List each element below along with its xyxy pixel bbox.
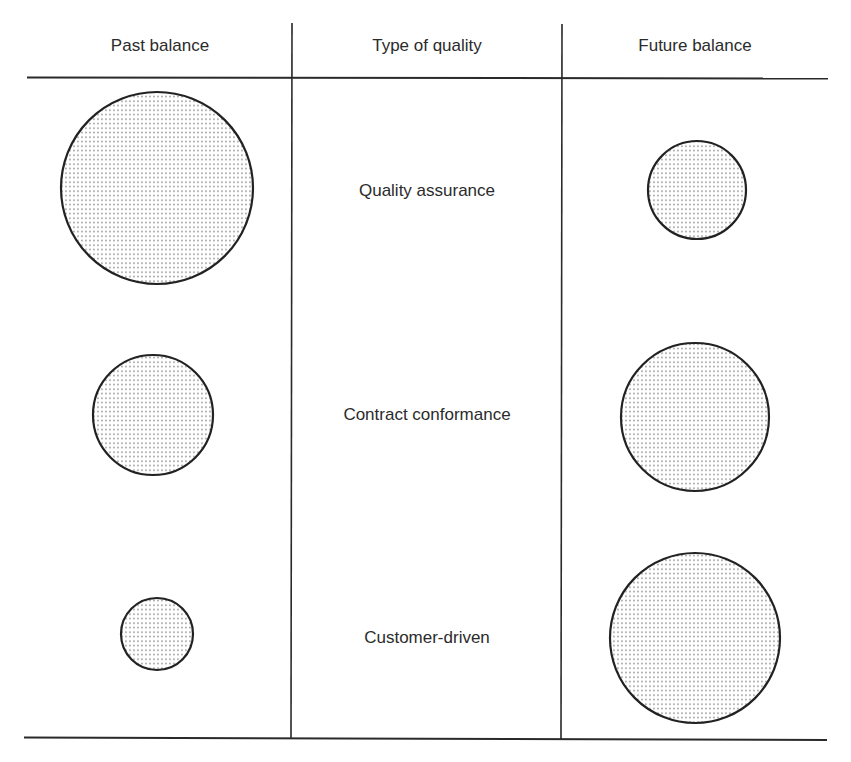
header-type-of-quality: Type of quality <box>372 36 482 56</box>
future-circle-quality-assurance <box>648 141 746 239</box>
future-circle-customer-driven <box>610 553 780 723</box>
quality-balance-diagram: Past balance Type of quality Future bala… <box>0 0 851 762</box>
bottom-divider-line <box>24 738 827 741</box>
header-divider-line <box>27 78 828 79</box>
header-past-balance: Past balance <box>111 36 209 56</box>
past-circle-customer-driven <box>121 598 193 670</box>
future-balance-circles <box>610 141 780 723</box>
column-divider-right <box>561 24 562 739</box>
future-circle-contract-conformance <box>621 343 769 491</box>
past-circle-contract-conformance <box>93 355 213 475</box>
column-divider-left <box>291 23 292 738</box>
past-balance-circles <box>61 92 253 670</box>
header-future-balance: Future balance <box>638 36 751 56</box>
row-label-contract-conformance: Contract conformance <box>343 405 510 425</box>
past-circle-quality-assurance <box>61 92 253 284</box>
row-label-customer-driven: Customer-driven <box>364 628 490 648</box>
row-label-quality-assurance: Quality assurance <box>359 181 495 201</box>
